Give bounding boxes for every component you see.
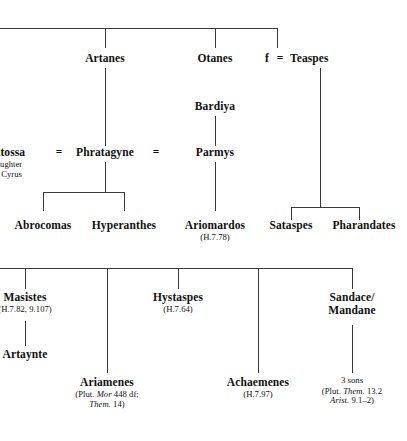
ariamenes-cite-italic-mor: Mor — [97, 389, 112, 399]
node-hyperanthes-label: Hyperanthes — [76, 219, 172, 232]
node-teaspes-label: Teaspes — [290, 52, 370, 65]
connector-drop-hyperanthes — [124, 192, 125, 211]
node-ariamenes-label: Ariamenes — [32, 376, 182, 389]
node-atossa-label: Atossa — [0, 146, 52, 159]
node-three-sons: 3 sons (Plut. Them. 13.2 Arist. 9.1–2) — [299, 376, 405, 406]
node-achaemenes-citation: (H.7.97) — [205, 390, 311, 400]
ariamenes-cite-pre: (Plut. — [75, 389, 96, 399]
three-sons-cite-post: 9.1–2) — [349, 395, 374, 405]
node-parmys-label: Parmys — [175, 146, 255, 159]
three-sons-cite-italic-them: Them. — [343, 386, 365, 396]
genealogy-chart: Artanes Otanes f = Teaspes Bardiya Atoss… — [0, 0, 407, 441]
node-three-sons-label: 3 sons — [299, 376, 405, 386]
connector-teaspes-children-bus — [291, 207, 359, 208]
node-three-sons-citation-line2: Arist. 9.1–2) — [299, 396, 405, 406]
node-hyperanthes: Hyperanthes — [76, 219, 172, 232]
node-ariamenes: Ariamenes (Plut. Mor 448 df; Them. 14) — [32, 376, 182, 409]
connector-drop-teaspes-branch — [277, 28, 278, 48]
node-artaynte: Artaynte — [0, 348, 70, 361]
node-artanes: Artanes — [55, 52, 155, 65]
marriage-equals-phratagyne-parmys: = — [150, 146, 162, 158]
node-teaspes-spouse-marker: f — [262, 52, 272, 64]
three-sons-cite-italic-arist: Arist. — [330, 395, 349, 405]
connector-sandace-three-sons — [352, 325, 353, 373]
node-bardiya-label: Bardiya — [165, 100, 265, 113]
node-teaspes: Teaspes — [290, 52, 370, 65]
node-atossa: Atossa daughter of Cyrus — [0, 146, 52, 180]
ariamenes-cite-post: 14) — [111, 399, 125, 409]
node-atossa-sub-line2: of Cyrus — [0, 169, 52, 179]
ariamenes-cite-mid: 448 df; — [112, 389, 139, 399]
connector-drop-ariamenes-branch — [107, 268, 108, 373]
node-sandace-label-line1: Sandace/ — [304, 291, 400, 304]
node-sataspes: Sataspes — [253, 219, 329, 232]
three-sons-cite-pre: (Plut. — [322, 386, 343, 396]
node-pharandates-label: Pharandates — [320, 219, 407, 232]
marriage-equals-atossa-phratagyne: = — [53, 146, 65, 158]
node-artanes-label: Artanes — [55, 52, 155, 65]
connector-masistes-artaynte — [25, 321, 26, 346]
node-masistes-citation: (H.7.82, 9.107) — [0, 305, 75, 315]
node-masistes-label: Masistes — [0, 291, 75, 304]
connector-drop-abrocomas — [43, 192, 44, 211]
connector-top-bus — [0, 28, 277, 29]
connector-phratagyne-children-bus — [43, 192, 124, 193]
node-atossa-sub-line1: daughter — [0, 159, 52, 169]
node-otanes: Otanes — [165, 52, 265, 65]
node-abrocomas: Abrocomas — [0, 219, 88, 232]
node-phratagyne: Phratagyne — [66, 146, 144, 159]
connector-drop-otanes — [215, 28, 216, 48]
connector-bardiya-parmys — [215, 116, 216, 146]
node-hystaspes: Hystaspes (H.7.64) — [130, 291, 226, 315]
node-bardiya: Bardiya — [165, 100, 265, 113]
node-otanes-label: Otanes — [165, 52, 265, 65]
marriage-equals-teaspes: = — [274, 52, 286, 64]
node-sandace-label-line2: Mandane — [304, 304, 400, 317]
node-parmys: Parmys — [175, 146, 255, 159]
node-ariomardos-citation: (H.7.78) — [167, 233, 263, 243]
connector-parmys-ariomardos — [215, 162, 216, 211]
node-achaemenes-label: Achaemenes — [205, 376, 311, 389]
node-ariomardos: Ariomardos (H.7.78) — [167, 219, 263, 243]
connector-teaspes-down — [320, 68, 321, 207]
connector-drop-sandace — [352, 268, 353, 289]
connector-drop-masistes — [25, 268, 26, 289]
connector-phratagyne-down — [105, 162, 106, 192]
node-sandace-mandane: Sandace/ Mandane — [304, 291, 400, 317]
connector-lower-bus — [0, 268, 352, 269]
node-masistes: Masistes (H.7.82, 9.107) — [0, 291, 75, 315]
connector-drop-achaemenes-branch — [258, 268, 259, 373]
node-ariomardos-label: Ariomardos — [167, 219, 263, 232]
node-abrocomas-label: Abrocomas — [0, 219, 88, 232]
node-sataspes-label: Sataspes — [253, 219, 329, 232]
ariamenes-cite-italic-them: Them. — [89, 399, 111, 409]
node-pharandates: Pharandates — [320, 219, 407, 232]
node-ariamenes-citation-line2: Them. 14) — [32, 400, 182, 410]
node-phratagyne-label: Phratagyne — [66, 146, 144, 159]
connector-artanes-down — [105, 68, 106, 146]
node-achaemenes: Achaemenes (H.7.97) — [205, 376, 311, 400]
connector-drop-hystaspes — [178, 268, 179, 289]
connector-drop-artanes — [105, 28, 106, 48]
three-sons-cite-mid: 13.2 — [365, 386, 382, 396]
node-hystaspes-label: Hystaspes — [130, 291, 226, 304]
node-artaynte-label: Artaynte — [0, 348, 70, 361]
node-hystaspes-citation: (H.7.64) — [130, 305, 226, 315]
